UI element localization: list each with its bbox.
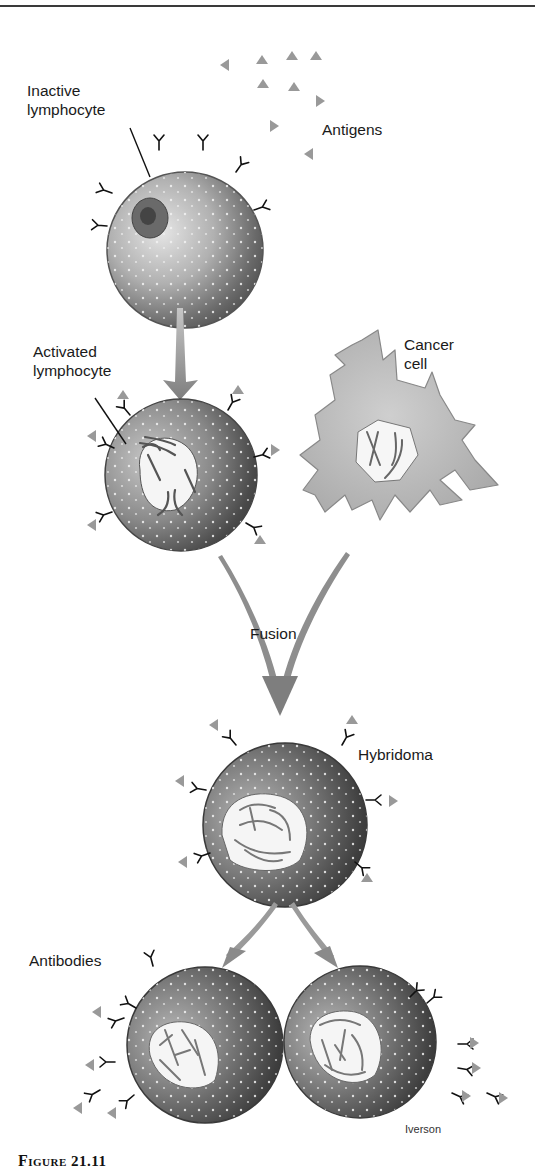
label-activated-lymphocyte: Activated lymphocyte bbox=[33, 342, 111, 380]
daughter-cell-right bbox=[284, 966, 508, 1118]
inactive-lymphocyte bbox=[92, 128, 270, 328]
daughter-cell-left bbox=[73, 967, 283, 1123]
figure-caption: Figure 21.11 bbox=[18, 1152, 107, 1170]
label-hybridoma: Hybridoma bbox=[358, 745, 433, 764]
antigen-cluster bbox=[220, 51, 325, 160]
caption-number: 21.11 bbox=[71, 1153, 106, 1169]
activated-lymphocyte bbox=[87, 385, 280, 551]
label-fusion: Fusion bbox=[250, 624, 297, 643]
label-antibodies: Antibodies bbox=[29, 951, 101, 970]
label-antigens: Antigens bbox=[322, 120, 382, 139]
cancer-cell bbox=[300, 330, 498, 520]
arrow-division bbox=[222, 902, 338, 968]
free-antibody bbox=[144, 950, 158, 967]
label-inactive-lymphocyte: Inactive lymphocyte bbox=[27, 81, 105, 119]
hybridoma-cell bbox=[175, 715, 398, 907]
caption-prefix: Figure bbox=[18, 1152, 67, 1169]
artist-credit: Iverson bbox=[405, 1123, 441, 1135]
label-cancer-cell: Cancer cell bbox=[404, 335, 454, 373]
